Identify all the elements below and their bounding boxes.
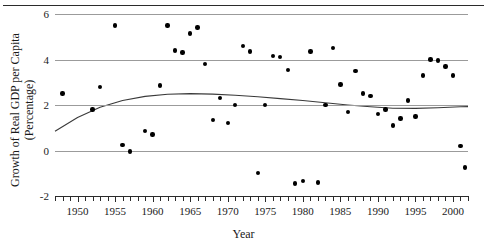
x-tick-label-2000: 2000 <box>442 205 464 217</box>
x-tick-1960 <box>153 196 154 202</box>
x-tick-1959 <box>145 196 146 201</box>
x-tick-label-1980: 1980 <box>292 205 314 217</box>
y-axis-title: Growth of Real GDP per Capita (Percentag… <box>8 15 36 205</box>
data-point <box>346 110 350 114</box>
x-tick-1947 <box>55 196 56 201</box>
x-tick-1948 <box>63 196 64 201</box>
x-tick-1980 <box>303 196 304 202</box>
x-tick-label-1965: 1965 <box>179 205 201 217</box>
y-tick-label-2: 2 <box>44 100 50 111</box>
x-tick-1976 <box>273 196 274 201</box>
x-tick-1956 <box>123 196 124 201</box>
data-point <box>406 98 410 102</box>
x-tick-1997 <box>430 196 431 201</box>
x-tick-1989 <box>370 196 371 201</box>
data-point <box>120 143 124 147</box>
x-tick-label-1985: 1985 <box>329 205 351 217</box>
data-point <box>391 123 395 127</box>
data-point <box>451 73 455 77</box>
data-point <box>398 116 402 120</box>
data-point <box>173 48 177 52</box>
data-point <box>150 132 154 136</box>
x-tick-1996 <box>423 196 424 201</box>
x-tick-1995 <box>415 196 416 202</box>
data-point <box>308 49 312 53</box>
x-tick-1974 <box>258 196 259 201</box>
x-tick-1987 <box>355 196 356 201</box>
x-tick-label-1970: 1970 <box>217 205 239 217</box>
gridline-y-2 <box>55 105 468 106</box>
data-point <box>180 50 184 54</box>
x-tick-1964 <box>183 196 184 201</box>
data-point <box>113 23 117 27</box>
y-tick-label-6: 6 <box>44 9 50 20</box>
data-point <box>458 144 462 148</box>
data-point <box>338 82 342 86</box>
data-point <box>323 103 327 107</box>
x-tick-1984 <box>333 196 334 201</box>
data-point <box>436 58 440 62</box>
data-point <box>286 68 290 72</box>
data-point <box>195 25 199 29</box>
x-tick-1968 <box>213 196 214 201</box>
x-tick-1985 <box>340 196 341 202</box>
x-tick-1999 <box>445 196 446 201</box>
figure-top-rule <box>3 5 484 6</box>
x-tick-label-1950: 1950 <box>67 205 89 217</box>
x-tick-1967 <box>205 196 206 201</box>
x-tick-1970 <box>228 196 229 202</box>
gridline-y-4 <box>55 60 468 61</box>
data-point <box>241 44 245 48</box>
data-point <box>421 73 425 77</box>
x-tick-1992 <box>393 196 394 201</box>
data-point <box>60 91 64 95</box>
x-tick-1986 <box>348 196 349 201</box>
gridline-y-0 <box>55 151 468 152</box>
y-tick-label-0: 0 <box>44 145 50 156</box>
x-tick-1951 <box>85 196 86 201</box>
x-tick-1971 <box>235 196 236 201</box>
x-tick-1990 <box>378 196 379 202</box>
x-tick-1998 <box>438 196 439 201</box>
plot-area: -20246 <box>55 14 468 196</box>
x-tick-1973 <box>250 196 251 201</box>
x-axis-title: Year <box>0 228 487 241</box>
x-tick-1981 <box>310 196 311 201</box>
x-tick-1954 <box>108 196 109 201</box>
x-tick-2001 <box>460 196 461 201</box>
x-tick-1978 <box>288 196 289 201</box>
x-tick-1977 <box>280 196 281 201</box>
x-axis: 1950195519601965197019751980198519901995… <box>55 196 468 197</box>
data-point <box>361 91 365 95</box>
data-point <box>383 107 387 111</box>
x-tick-1950 <box>78 196 79 202</box>
x-tick-1991 <box>385 196 386 201</box>
x-tick-1952 <box>93 196 94 201</box>
y-tick-label--2: -2 <box>40 191 49 202</box>
x-tick-1953 <box>100 196 101 201</box>
x-tick-1962 <box>168 196 169 201</box>
x-tick-1966 <box>198 196 199 201</box>
data-point <box>368 94 372 98</box>
x-tick-label-1990: 1990 <box>367 205 389 217</box>
y-axis-title-line1: Growth of Real GDP per Capita <box>8 15 22 205</box>
x-tick-label-1975: 1975 <box>254 205 276 217</box>
x-tick-1988 <box>363 196 364 201</box>
x-tick-label-1995: 1995 <box>404 205 426 217</box>
x-tick-1975 <box>265 196 266 202</box>
x-tick-1993 <box>400 196 401 201</box>
x-tick-1955 <box>115 196 116 202</box>
x-tick-1961 <box>160 196 161 201</box>
x-tick-1963 <box>175 196 176 201</box>
data-point <box>443 64 447 68</box>
x-tick-1949 <box>70 196 71 201</box>
data-point <box>316 180 320 184</box>
x-tick-1958 <box>138 196 139 201</box>
x-tick-1982 <box>318 196 319 201</box>
data-point <box>413 114 417 118</box>
x-tick-1972 <box>243 196 244 201</box>
data-point <box>128 149 132 153</box>
x-tick-1983 <box>325 196 326 201</box>
x-tick-label-1955: 1955 <box>104 205 126 217</box>
data-point <box>90 107 94 111</box>
